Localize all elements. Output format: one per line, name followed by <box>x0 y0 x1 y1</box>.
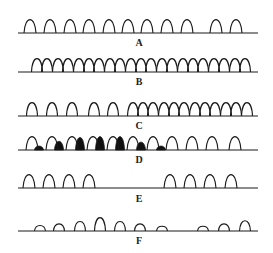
peak <box>204 175 216 188</box>
row-a <box>18 20 258 33</box>
peak <box>95 218 106 231</box>
peak <box>35 225 46 231</box>
peak <box>146 59 157 72</box>
peak <box>105 59 116 72</box>
peak <box>157 59 168 72</box>
peak <box>122 20 134 33</box>
filled-peak <box>157 146 166 150</box>
row-b <box>18 59 258 72</box>
peak <box>138 103 149 116</box>
peak <box>74 59 85 72</box>
filled-peak <box>35 146 44 150</box>
peak <box>240 221 251 231</box>
peak <box>169 103 180 116</box>
peak <box>27 103 38 116</box>
peak <box>44 20 56 33</box>
peak <box>136 59 147 72</box>
peak <box>219 224 230 231</box>
peak <box>24 20 36 33</box>
peak <box>198 59 209 72</box>
peak <box>126 59 137 72</box>
peak <box>103 20 115 33</box>
peak <box>115 222 126 231</box>
peak <box>23 175 35 188</box>
peak <box>128 103 139 116</box>
peak <box>184 175 196 188</box>
peak <box>63 59 74 72</box>
peak <box>43 175 55 188</box>
peak <box>179 103 190 116</box>
peak <box>108 103 119 116</box>
peak <box>115 59 126 72</box>
peak <box>230 59 241 72</box>
peak <box>164 175 176 188</box>
peak <box>198 226 209 231</box>
peak <box>54 224 65 231</box>
peak <box>200 103 211 116</box>
peak <box>186 137 198 150</box>
peak <box>210 20 222 33</box>
peak <box>190 103 201 116</box>
peak <box>161 20 173 33</box>
filled-peak <box>96 137 105 150</box>
peak <box>32 59 43 72</box>
peak <box>157 226 168 231</box>
peak <box>159 103 170 116</box>
row-label: D <box>135 154 142 165</box>
peak <box>64 20 76 33</box>
peak <box>221 103 232 116</box>
peak <box>84 59 95 72</box>
peak <box>210 103 221 116</box>
peak <box>229 137 241 150</box>
peak <box>42 59 53 72</box>
peak <box>83 20 95 33</box>
peak <box>63 175 75 188</box>
peak <box>230 20 242 33</box>
peak <box>53 59 64 72</box>
peak <box>167 59 178 72</box>
peak <box>219 59 230 72</box>
peak <box>148 103 159 116</box>
row-label: E <box>136 193 143 204</box>
peak <box>135 224 146 231</box>
peak <box>181 20 193 33</box>
row-d <box>18 137 258 150</box>
row-label: A <box>135 37 142 48</box>
filled-peak <box>116 137 125 150</box>
peak <box>240 59 251 72</box>
peak <box>225 175 237 188</box>
peak <box>206 137 218 150</box>
peak <box>89 103 100 116</box>
row-label: C <box>135 120 142 131</box>
peak <box>75 222 86 231</box>
peak <box>47 103 58 116</box>
peak <box>178 59 189 72</box>
peak <box>141 20 153 33</box>
peak <box>209 59 220 72</box>
peak <box>166 137 178 150</box>
peak <box>94 59 105 72</box>
peak <box>231 103 242 116</box>
row-f <box>18 218 258 231</box>
row-e <box>18 175 258 188</box>
peak <box>242 103 253 116</box>
row-c <box>18 103 258 116</box>
row-label: B <box>136 76 143 87</box>
peak <box>67 103 78 116</box>
row-label: F <box>136 235 142 246</box>
peak <box>188 59 199 72</box>
filled-peak <box>55 141 64 150</box>
peak <box>83 175 95 188</box>
